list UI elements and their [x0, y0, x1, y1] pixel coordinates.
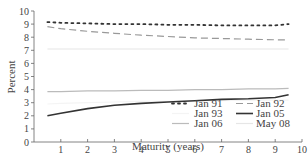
plot-area	[47, 22, 288, 116]
x-tick-label: 7	[219, 144, 224, 155]
series-line-jan-91	[47, 22, 288, 25]
yield-curve-chart: 012345678910 12345678910 Percent Maturit…	[0, 0, 308, 155]
y-tick-label: 5	[24, 71, 29, 82]
y-tick-label: 8	[24, 32, 29, 43]
y-tick-label: 10	[19, 6, 29, 17]
legend-label: May 08	[256, 117, 290, 129]
legend: Jan 91Jan 92Jan 93Jan 05Jan 06May 08	[172, 97, 290, 129]
y-tick-label: 4	[24, 84, 29, 95]
x-tick-label: 2	[85, 144, 90, 155]
series-line-jan-06	[47, 88, 288, 91]
y-tick-label: 7	[24, 45, 29, 56]
y-tick-label: 9	[24, 19, 29, 30]
y-axis-title: Percent	[5, 61, 17, 94]
series-line-jan-92	[47, 27, 288, 40]
x-tick-label: 3	[112, 144, 117, 155]
y-tick-label: 3	[24, 97, 29, 108]
y-tick-label: 0	[24, 137, 29, 148]
x-tick-label: 1	[58, 144, 63, 155]
y-axis: 012345678910	[19, 6, 34, 148]
x-tick-label: 9	[273, 144, 278, 155]
x-tick-label: 10	[297, 144, 307, 155]
y-tick-label: 6	[24, 58, 29, 69]
series-line-jan-05	[47, 95, 288, 116]
y-tick-label: 1	[24, 123, 29, 134]
x-tick-label: 8	[246, 144, 251, 155]
y-tick-label: 2	[24, 110, 29, 121]
legend-label: Jan 06	[194, 117, 223, 129]
x-axis-title: Maturity (years)	[132, 140, 204, 153]
